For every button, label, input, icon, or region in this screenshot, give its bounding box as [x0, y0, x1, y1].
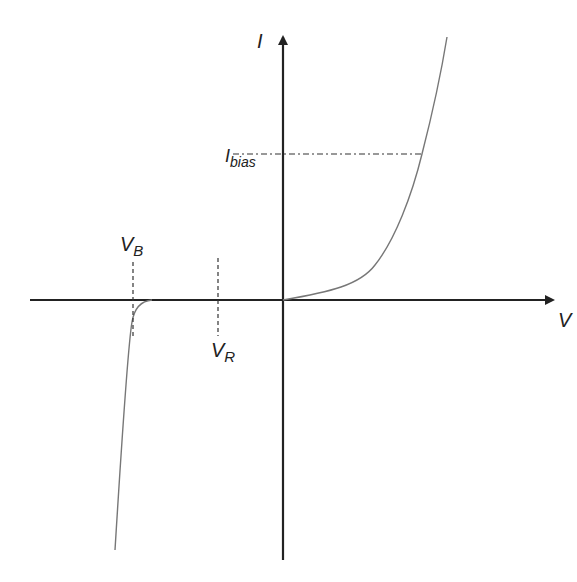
v-r-label: VR	[211, 339, 235, 365]
forward-curve	[283, 37, 447, 300]
iv-diagram: I V Ibias VB VR	[0, 0, 577, 582]
reverse-breakdown-curve	[115, 300, 152, 550]
x-axis-label: V	[558, 309, 573, 331]
i-bias-label: Ibias	[225, 146, 256, 170]
y-axis-label: I	[257, 30, 263, 52]
v-b-label: VB	[120, 233, 143, 259]
